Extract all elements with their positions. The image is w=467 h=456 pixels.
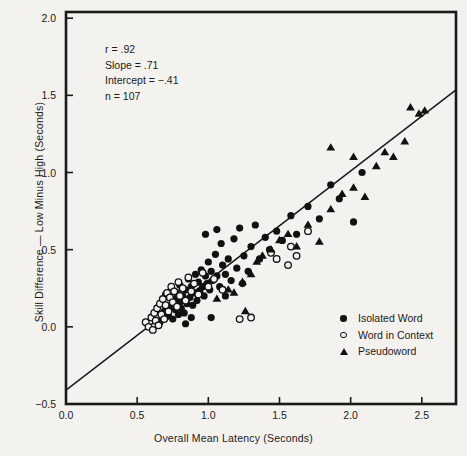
data-point [192, 271, 199, 278]
data-point [179, 285, 186, 292]
data-point [262, 234, 269, 241]
data-point [171, 288, 178, 295]
data-point [212, 294, 221, 301]
x-tick-label: 0.0 [59, 409, 74, 421]
data-point [380, 148, 389, 155]
data-point [182, 320, 189, 327]
stat-slope: Slope = .71 [105, 58, 179, 74]
data-point [218, 240, 225, 247]
data-point [326, 143, 335, 150]
data-point [199, 270, 206, 277]
x-tick-label: 0.5 [130, 409, 145, 421]
data-point [315, 237, 324, 244]
triangle-icon [340, 348, 356, 355]
data-point [326, 205, 335, 212]
stat-sample-size: n = 107 [105, 89, 179, 105]
data-point [400, 137, 409, 144]
data-point [181, 309, 188, 316]
data-point [240, 252, 247, 259]
legend-label: Word in Context [358, 327, 433, 344]
data-point [205, 283, 212, 290]
data-point [247, 243, 254, 250]
data-point [174, 303, 181, 310]
data-point [195, 291, 202, 298]
data-point [338, 190, 347, 197]
statistics-annotation: r = .92 Slope = .71 Intercept = −.41 n =… [105, 42, 179, 104]
data-point [406, 103, 415, 110]
data-point [358, 169, 365, 176]
data-point [188, 288, 195, 295]
data-point [177, 293, 184, 300]
data-point [182, 297, 189, 304]
data-point [213, 226, 220, 233]
data-point [293, 231, 300, 238]
data-point [285, 262, 292, 269]
open-circle-icon [340, 332, 356, 339]
data-point [287, 212, 294, 219]
data-point [212, 251, 219, 258]
data-point [161, 316, 168, 323]
data-point [188, 314, 195, 321]
legend-label: Isolated Word [358, 310, 423, 327]
data-point [205, 258, 212, 265]
data-point [273, 256, 280, 263]
data-point [316, 215, 323, 222]
y-tick-label: −0.5 [22, 398, 56, 410]
data-point [185, 274, 192, 281]
stat-correlation: r = .92 [105, 42, 179, 58]
data-point [241, 307, 250, 314]
data-point [155, 322, 162, 329]
legend-label: Pseudoword [358, 343, 416, 360]
data-point [208, 268, 215, 275]
data-point [304, 220, 313, 227]
data-point [225, 255, 232, 262]
data-point [273, 228, 280, 235]
data-point [304, 203, 311, 210]
legend-item-word-in-context: Word in Context [340, 327, 433, 344]
y-tick-label: 1.5 [22, 89, 56, 101]
legend-item-pseudoword: Pseudoword [340, 343, 433, 360]
data-point [169, 316, 176, 323]
data-point [327, 181, 334, 188]
data-point [230, 235, 237, 242]
data-point [222, 271, 229, 278]
data-point [252, 221, 259, 228]
x-tick-label: 2.5 [415, 409, 430, 421]
data-point [305, 228, 312, 235]
data-point [349, 183, 358, 190]
data-point [238, 277, 247, 284]
filled-circle-icon [340, 315, 356, 322]
data-point [361, 193, 370, 200]
stat-intercept: Intercept = −.41 [105, 73, 179, 89]
scatter-plot-figure [0, 0, 467, 456]
data-point [236, 224, 243, 231]
data-point [236, 316, 243, 323]
data-point [258, 251, 267, 258]
data-point [191, 280, 198, 287]
y-tick-label: 0.0 [22, 321, 56, 333]
data-point [349, 152, 358, 159]
y-tick-label: 0.5 [22, 244, 56, 256]
series-open-circle [142, 228, 311, 333]
data-point [219, 262, 226, 269]
data-point [211, 276, 218, 283]
y-tick-label: 2.0 [22, 12, 56, 24]
legend-item-isolated-word: Isolated Word [340, 310, 433, 327]
data-point [420, 106, 429, 113]
data-point [175, 279, 182, 286]
data-point [208, 314, 215, 321]
data-point [228, 277, 235, 284]
y-tick-label: 1.0 [22, 167, 56, 179]
x-tick-label: 1.5 [272, 409, 287, 421]
data-point [165, 308, 172, 315]
data-point [350, 218, 357, 225]
data-point [150, 327, 157, 334]
legend: Isolated Word Word in Context Pseudoword [340, 310, 433, 360]
data-point [284, 230, 293, 237]
data-point [293, 253, 300, 260]
x-tick-label: 1.0 [201, 409, 216, 421]
data-point [248, 314, 255, 321]
data-point [233, 265, 240, 272]
data-point [202, 231, 209, 238]
x-axis-title: Overall Mean Latency (Seconds) [0, 432, 467, 444]
